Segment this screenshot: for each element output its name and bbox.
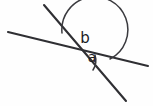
figure-background [0, 0, 153, 106]
geometry-figure-svg: b a [0, 0, 153, 106]
geometry-figure-container: b a [0, 0, 153, 106]
angle-label-a: a [88, 49, 97, 65]
angle-label-b: b [80, 29, 90, 47]
